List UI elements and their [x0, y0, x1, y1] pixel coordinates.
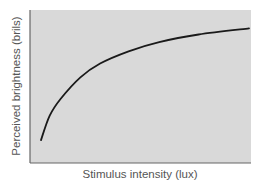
plot-area	[30, 10, 251, 163]
y-axis-label: Perceived brightness (brils)	[10, 16, 22, 155]
x-axis-label: Stimulus intensity (lux)	[82, 168, 197, 180]
chart: Perceived brightness (brils) Stimulus in…	[0, 0, 265, 182]
plot-svg	[0, 0, 265, 182]
